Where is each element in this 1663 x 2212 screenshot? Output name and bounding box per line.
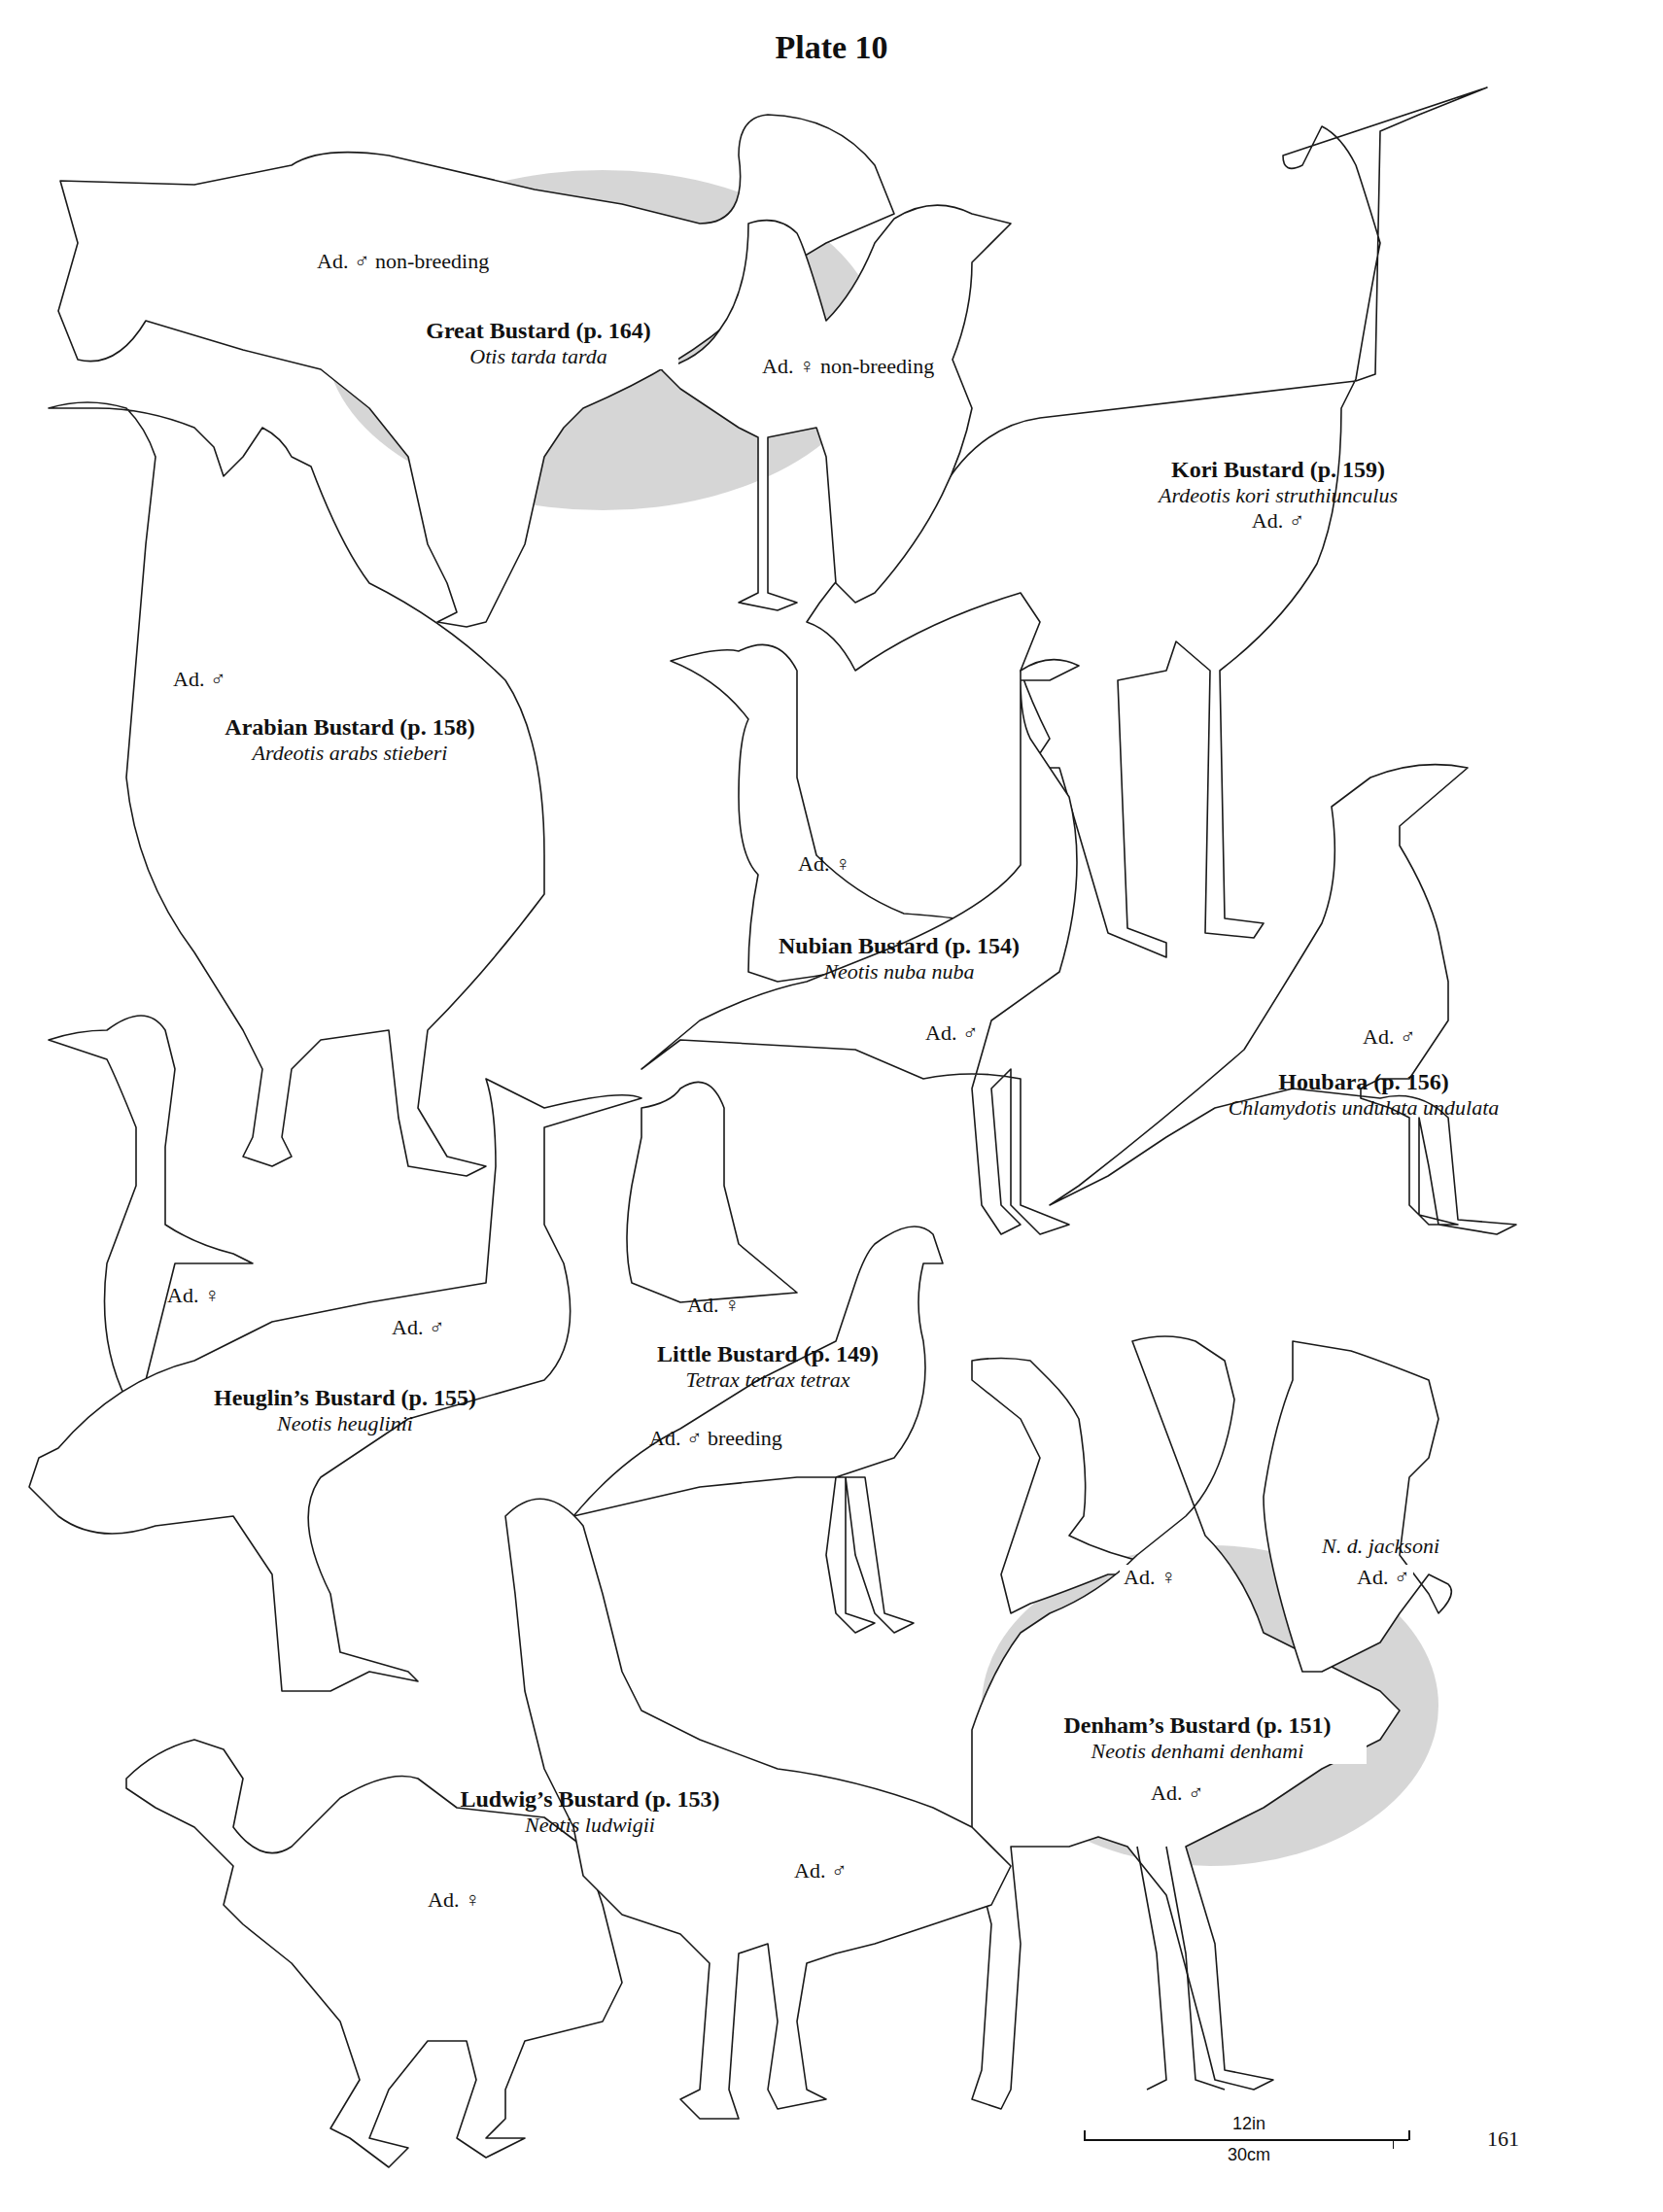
heuglins-bustard-scientific: Neotis heuglinii	[214, 1411, 476, 1436]
great-bustard-name: Great Bustard (p. 164)	[402, 318, 675, 344]
kori-bustard-name: Kori Bustard (p. 159)	[1159, 457, 1398, 483]
great-bustard-scientific: Otis tarda tarda	[402, 344, 675, 369]
denhams-jacksoni-label: N. d. jacksoni	[1322, 1534, 1439, 1559]
little-bustard-female-silhouette	[627, 1082, 797, 1302]
scale-imperial-label: 12in	[1084, 2114, 1414, 2134]
denhams-bustard-name: Denham’s Bustard (p. 151)	[1032, 1712, 1363, 1739]
little-bustard-caption: Little Bustard (p. 149) Tetrax tetrax te…	[657, 1341, 879, 1393]
little-bustard-female-label: Ad. ♀	[687, 1293, 740, 1318]
nubian-bustard-scientific: Neotis nuba nuba	[779, 959, 1020, 985]
heuglins-bustard-name: Heuglin’s Bustard (p. 155)	[214, 1385, 476, 1411]
great-bustard-caption: Great Bustard (p. 164) Otis tarda tarda	[398, 318, 678, 369]
nubian-bustard-caption: Nubian Bustard (p. 154) Neotis nuba nuba	[779, 933, 1020, 985]
arabian-bustard-scientific: Ardeotis arabs stieberi	[225, 741, 474, 766]
ludwigs-bustard-female-label: Ad. ♀	[428, 1887, 480, 1913]
scale-bar-line	[1084, 2139, 1408, 2141]
scale-metric-label: 30cm	[1084, 2145, 1414, 2165]
great-bustard-female-label: Ad. ♀ non-breeding	[758, 354, 938, 379]
scale-tick-end	[1408, 2130, 1410, 2140]
little-bustard-male-label: Ad. ♂ breeding	[649, 1426, 782, 1451]
houbara-caption: Houbara (p. 156) Chlamydotis undulata un…	[1229, 1069, 1500, 1121]
denhams-bustard-male-label: Ad. ♂	[1147, 1780, 1207, 1806]
kori-bustard-male-label: Ad. ♂	[1159, 508, 1398, 534]
kori-bustard-caption: Kori Bustard (p. 159) Ardeotis kori stru…	[1159, 457, 1398, 534]
heuglins-bustard-male-label: Ad. ♂	[392, 1315, 444, 1340]
houbara-scientific: Chlamydotis undulata undulata	[1229, 1095, 1500, 1121]
ludwigs-bustard-male-label: Ad. ♂	[794, 1858, 847, 1884]
nubian-bustard-female-label: Ad. ♀	[798, 851, 850, 877]
nubian-bustard-female-silhouette	[671, 644, 972, 982]
scale-tick-start	[1084, 2130, 1086, 2140]
heuglins-bustard-caption: Heuglin’s Bustard (p. 155) Neotis heugli…	[214, 1385, 476, 1436]
ludwigs-bustard-caption: Ludwig’s Bustard (p. 153) Neotis ludwigi…	[460, 1786, 719, 1838]
plate-title: Plate 10	[0, 29, 1663, 66]
page-number: 161	[1487, 2126, 1519, 2152]
little-bustard-scientific: Tetrax tetrax tetrax	[657, 1367, 879, 1393]
houbara-name: Houbara (p. 156)	[1229, 1069, 1500, 1095]
arabian-bustard-name: Arabian Bustard (p. 158)	[225, 714, 474, 741]
nubian-bustard-male-label: Ad. ♂	[925, 1020, 978, 1046]
arabian-bustard-male-label: Ad. ♂	[173, 667, 225, 692]
kori-bustard-scientific: Ardeotis kori struthiunculus	[1159, 483, 1398, 508]
houbara-male-label: Ad. ♂	[1363, 1024, 1415, 1050]
ludwigs-bustard-name: Ludwig’s Bustard (p. 153)	[460, 1786, 719, 1813]
arabian-bustard-caption: Arabian Bustard (p. 158) Ardeotis arabs …	[225, 714, 474, 766]
heuglins-bustard-female-label: Ad. ♀	[167, 1283, 220, 1308]
denhams-bustard-caption: Denham’s Bustard (p. 151) Neotis denhami…	[1028, 1712, 1367, 1764]
nubian-bustard-name: Nubian Bustard (p. 154)	[779, 933, 1020, 959]
denhams-jacksoni-male-label: Ad. ♂	[1353, 1565, 1413, 1590]
denhams-bustard-scientific: Neotis denhami denhami	[1032, 1739, 1363, 1764]
ludwigs-bustard-scientific: Neotis ludwigii	[460, 1813, 719, 1838]
denhams-jacksoni-silhouette	[1264, 1341, 1451, 1672]
scale-bar: 12in 30cm	[1084, 2114, 1414, 2172]
denhams-bustard-female-label: Ad. ♀	[1120, 1565, 1180, 1590]
great-bustard-male-label: Ad. ♂ non-breeding	[313, 249, 493, 274]
little-bustard-name: Little Bustard (p. 149)	[657, 1341, 879, 1367]
